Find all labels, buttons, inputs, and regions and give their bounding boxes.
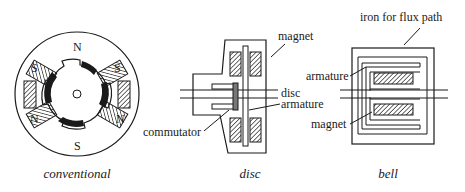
leader-bell-magnet bbox=[350, 112, 372, 124]
label-magnet: magnet bbox=[278, 29, 314, 43]
caption-bell: bell bbox=[378, 166, 398, 181]
bell-motor: iron for flux path armature magnet bell bbox=[306, 10, 448, 181]
commutator bbox=[233, 83, 238, 110]
label-armature: armature bbox=[281, 97, 324, 111]
disc-motor: magnet disc armature commutator disc bbox=[143, 29, 324, 181]
magnet-lower-left bbox=[230, 118, 241, 142]
pole-label-n-left: N bbox=[30, 112, 39, 126]
magnet-lower-right bbox=[250, 118, 261, 142]
leader-armature bbox=[249, 104, 280, 110]
pole-label-s-right: S bbox=[114, 61, 121, 75]
shaft-icon bbox=[73, 90, 81, 98]
magnet-upper-right bbox=[250, 52, 261, 76]
pole-label-n-top: N bbox=[73, 40, 82, 54]
brush-bottom bbox=[212, 104, 234, 109]
bell-magnet-upper bbox=[374, 73, 413, 84]
pole-label-s-left: S bbox=[31, 61, 38, 75]
label-iron-for-flux-path: iron for flux path bbox=[360, 10, 442, 24]
leader-magnet bbox=[271, 44, 285, 57]
caption-disc: disc bbox=[240, 166, 261, 181]
bell-magnet-lower bbox=[374, 104, 413, 115]
label-commutator: commutator bbox=[143, 125, 201, 139]
label-bell-armature: armature bbox=[306, 69, 349, 83]
disc-armature bbox=[243, 46, 248, 146]
rotor-outline bbox=[42, 59, 112, 129]
magnet-upper-left bbox=[230, 52, 241, 76]
leader-iron bbox=[404, 28, 420, 45]
leader-commutator bbox=[204, 110, 229, 131]
pole-label-s-bottom: S bbox=[74, 139, 81, 153]
brush-top bbox=[212, 84, 234, 89]
motor-diagram: N S S N N S conventional magnet disc arm… bbox=[0, 0, 465, 192]
label-bell-magnet: magnet bbox=[311, 117, 347, 131]
pole-label-n-right: N bbox=[116, 112, 125, 126]
conventional-motor: N S S N N S conventional bbox=[15, 32, 139, 181]
caption-conventional: conventional bbox=[43, 166, 111, 181]
